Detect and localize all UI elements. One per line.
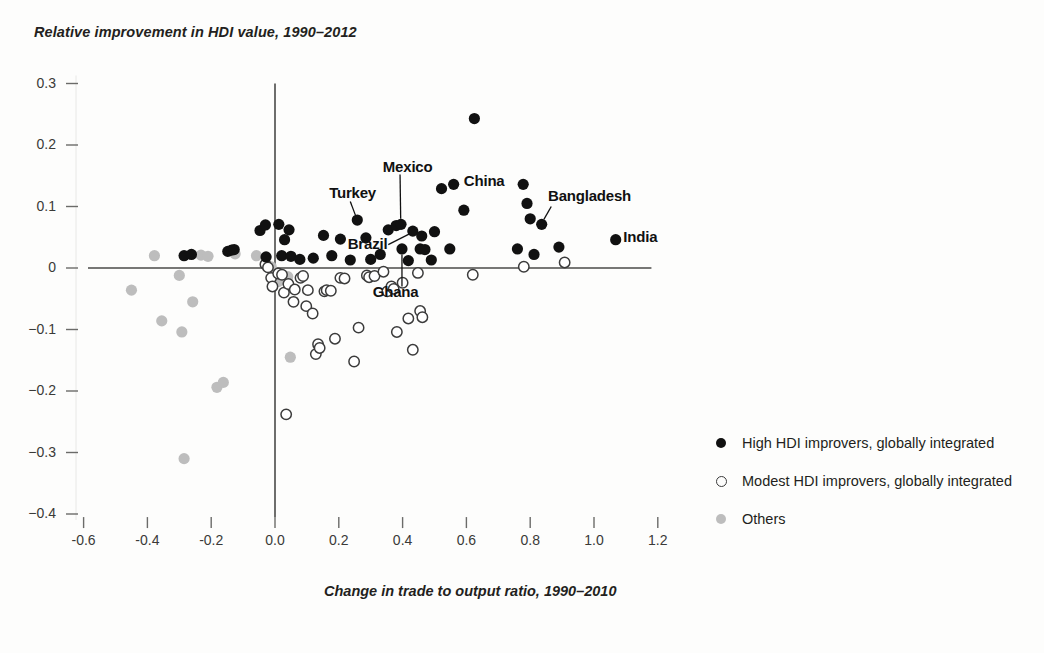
legend-item-high-improvers[interactable]: High HDI improvers, globally integrated <box>713 424 1033 462</box>
data-point[interactable] <box>553 241 564 252</box>
leader-line <box>400 175 401 219</box>
x-tick-label: -0.4 <box>122 532 172 548</box>
data-point[interactable] <box>290 284 300 294</box>
data-point[interactable] <box>303 285 313 295</box>
x-tick-label: 0.4 <box>378 532 428 548</box>
data-point[interactable] <box>307 308 317 318</box>
data-point[interactable] <box>444 243 455 254</box>
data-point[interactable] <box>518 179 529 190</box>
x-tick-label: 0.8 <box>505 532 555 548</box>
data-point[interactable] <box>395 219 406 230</box>
legend-item-others[interactable]: Others <box>713 500 1033 538</box>
data-point[interactable] <box>403 255 414 266</box>
data-point[interactable] <box>326 286 336 296</box>
data-point[interactable] <box>396 243 407 254</box>
leader-line <box>350 202 355 216</box>
data-point[interactable] <box>392 327 402 337</box>
data-point[interactable] <box>419 244 430 255</box>
data-point[interactable] <box>353 322 363 332</box>
legend-label: High HDI improvers, globally integrated <box>742 435 994 451</box>
data-point[interactable] <box>426 254 437 265</box>
data-point[interactable] <box>218 377 229 388</box>
legend-label: Others <box>742 511 786 527</box>
data-point[interactable] <box>345 254 356 265</box>
data-point[interactable] <box>126 285 137 296</box>
point-label-india: India <box>623 228 657 245</box>
data-point[interactable] <box>267 281 277 291</box>
data-point[interactable] <box>559 257 569 267</box>
data-point[interactable] <box>298 271 308 281</box>
data-point[interactable] <box>283 224 294 235</box>
data-point[interactable] <box>525 213 536 224</box>
data-point[interactable] <box>417 312 427 322</box>
data-point[interactable] <box>403 313 413 323</box>
point-label-bangladesh: Bangladesh <box>548 187 631 204</box>
legend-item-modest-improvers[interactable]: Modest HDI improvers, globally integrate… <box>713 462 1033 500</box>
x-tick-label: 0.0 <box>250 532 300 548</box>
x-tick-label: 0.2 <box>314 532 364 548</box>
data-point[interactable] <box>308 253 319 264</box>
leader-line <box>388 234 409 244</box>
data-point[interactable] <box>521 198 532 209</box>
data-point[interactable] <box>273 219 284 230</box>
data-point[interactable] <box>263 262 273 272</box>
data-point[interactable] <box>318 230 329 241</box>
x-tick-label: 1.0 <box>569 532 619 548</box>
data-point[interactable] <box>277 270 287 280</box>
data-point[interactable] <box>285 352 296 363</box>
data-point[interactable] <box>260 251 271 262</box>
data-point[interactable] <box>326 250 337 261</box>
data-point[interactable] <box>294 254 305 265</box>
data-point[interactable] <box>288 297 298 307</box>
y-tick-label: −0.4 <box>8 505 56 521</box>
data-point[interactable] <box>528 249 539 260</box>
data-point[interactable] <box>174 270 185 281</box>
data-point[interactable] <box>149 250 160 261</box>
x-tick-label: 1.2 <box>633 532 683 548</box>
leader-line <box>544 207 551 220</box>
chart-figure: Relative improvement in HDI value, 1990–… <box>0 0 1044 653</box>
y-tick-label: −0.2 <box>8 382 56 398</box>
data-point[interactable] <box>279 234 290 245</box>
data-point[interactable] <box>469 113 480 124</box>
data-point[interactable] <box>314 343 324 353</box>
data-point[interactable] <box>251 250 262 261</box>
data-point[interactable] <box>468 270 478 280</box>
point-label-mexico: Mexico <box>383 158 433 175</box>
data-point[interactable] <box>610 234 621 245</box>
data-point[interactable] <box>448 179 459 190</box>
data-point[interactable] <box>352 214 363 225</box>
chart-legend: High HDI improvers, globally integrated … <box>713 424 1033 538</box>
data-point[interactable] <box>281 409 291 419</box>
data-point[interactable] <box>416 230 427 241</box>
y-tick-label: −0.1 <box>8 321 56 337</box>
data-point[interactable] <box>349 356 359 366</box>
data-point[interactable] <box>536 219 547 230</box>
data-point[interactable] <box>413 268 423 278</box>
data-point[interactable] <box>519 262 529 272</box>
data-point[interactable] <box>339 273 349 283</box>
data-point[interactable] <box>436 183 447 194</box>
data-point[interactable] <box>458 205 469 216</box>
data-point[interactable] <box>260 219 271 230</box>
data-point[interactable] <box>330 334 340 344</box>
point-label-turkey: Turkey <box>329 184 376 201</box>
y-tick-label: 0 <box>8 259 56 275</box>
data-point[interactable] <box>365 254 376 265</box>
data-point[interactable] <box>512 243 523 254</box>
data-point[interactable] <box>186 249 197 260</box>
y-tick-label: 0.2 <box>8 136 56 152</box>
data-point[interactable] <box>335 233 346 244</box>
data-point[interactable] <box>176 326 187 337</box>
y-tick-label: −0.3 <box>8 444 56 460</box>
open-circle-icon <box>713 476 729 487</box>
data-point[interactable] <box>178 453 189 464</box>
point-label-ghana: Ghana <box>373 283 419 300</box>
data-point[interactable] <box>378 266 388 276</box>
data-point[interactable] <box>408 345 418 355</box>
data-point[interactable] <box>187 296 198 307</box>
data-point[interactable] <box>202 251 213 262</box>
data-point[interactable] <box>429 226 440 237</box>
data-point[interactable] <box>229 244 240 255</box>
data-point[interactable] <box>156 315 167 326</box>
